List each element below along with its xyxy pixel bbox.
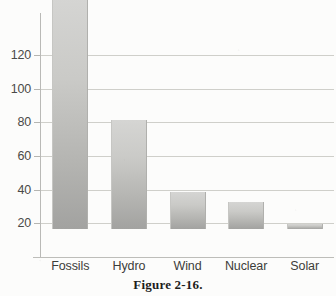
bar-fossils: [52, 0, 88, 229]
x-tick-label-wind: Wind: [158, 259, 217, 274]
figure-2-16: 20406080100120 FossilsHydroWindNuclearSo…: [0, 0, 336, 296]
bar-hydro: [111, 120, 147, 229]
x-tick-label-fossils: Fossils: [41, 259, 100, 274]
x-tick-label-solar: Solar: [275, 259, 334, 274]
bar-nuclear: [228, 202, 264, 229]
bar-chart: 20406080100120 FossilsHydroWindNuclearSo…: [0, 0, 336, 268]
x-axis-labels: FossilsHydroWindNuclearSolar: [0, 259, 336, 279]
bar-wind: [170, 192, 206, 229]
figure-caption: Figure 2-16.: [0, 277, 336, 293]
bars-group: [0, 0, 336, 268]
x-tick-label-nuclear: Nuclear: [217, 259, 276, 274]
bar-solar: [287, 224, 323, 229]
x-tick-label-hydro: Hydro: [100, 259, 159, 274]
